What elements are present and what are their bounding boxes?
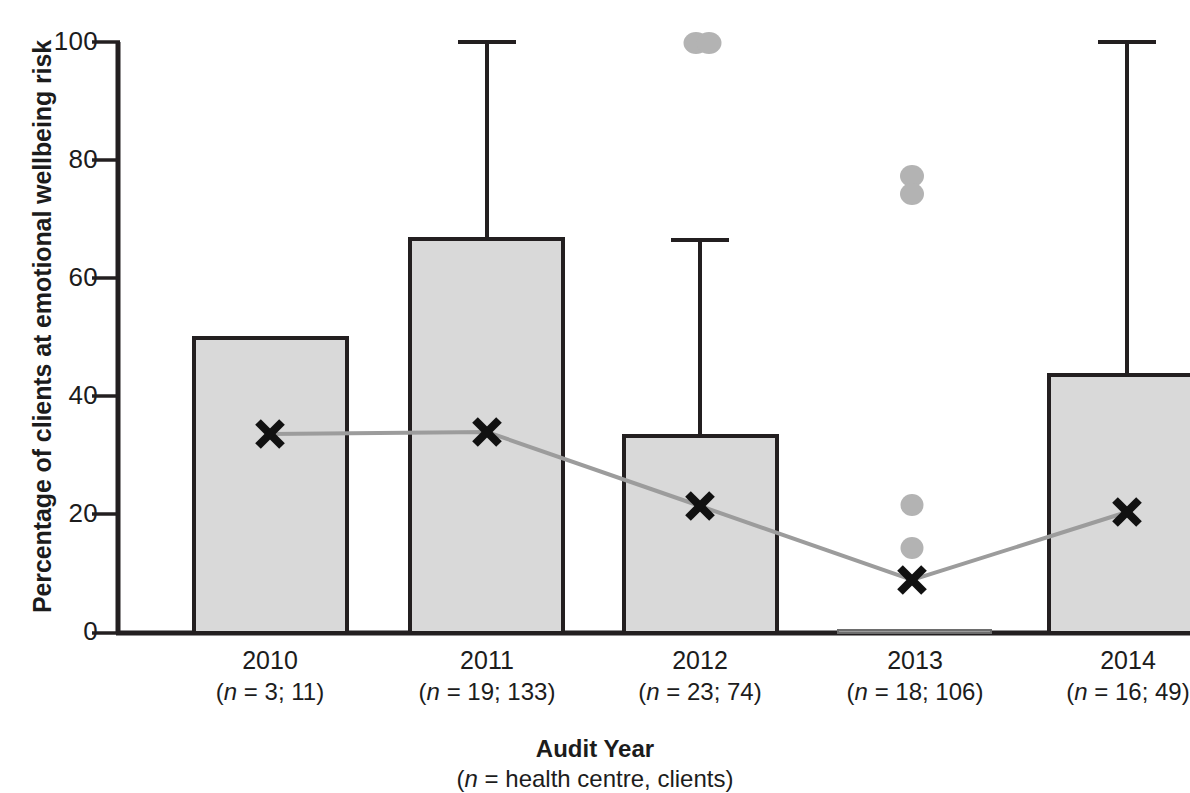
outlier-dot	[901, 494, 924, 516]
x-tick-2012: 2012 (n = 23; 74)	[585, 645, 815, 707]
x-tick-year-2014: 2014	[1013, 645, 1190, 677]
plot-area	[0, 0, 1190, 700]
x-tick-2013: 2013 (n = 18; 106)	[800, 645, 1030, 707]
x-tick-year-2013: 2013	[800, 645, 1030, 677]
x-tick-2014: 2014 (n = 16; 49)	[1013, 645, 1190, 707]
error-bar-2012	[671, 240, 729, 436]
bar-2010	[194, 338, 347, 633]
x-tick-year-2012: 2012	[585, 645, 815, 677]
x-tick-note-2012: (n = 23; 74)	[585, 677, 815, 707]
x-tick-year-2011: 2011	[372, 645, 602, 677]
x-tick-note-2011: (n = 19; 133)	[372, 677, 602, 707]
outlier-dot	[697, 32, 722, 54]
outlier-dot	[900, 183, 924, 205]
outlier-dot	[901, 537, 924, 559]
x-tick-note-2013: (n = 18; 106)	[800, 677, 1030, 707]
bar-series	[194, 239, 1190, 633]
x-axis-title: Audit Year	[0, 735, 1190, 763]
error-bar-2014	[1098, 42, 1156, 375]
mean-marker-2013	[900, 568, 924, 592]
chart-figure: Percentage of clients at emotional wellb…	[0, 0, 1190, 793]
x-tick-note-2014: (n = 16; 49)	[1013, 677, 1190, 707]
x-tick-2011: 2011 (n = 19; 133)	[372, 645, 602, 707]
x-tick-note-2010: (n = 3; 11)	[155, 677, 385, 707]
x-tick-2010: 2010 (n = 3; 11)	[155, 645, 385, 707]
bar-2012	[624, 436, 777, 633]
x-axis-subtitle: (n = health centre, clients)	[0, 765, 1190, 793]
bar-2013	[838, 630, 991, 633]
x-tick-year-2010: 2010	[155, 645, 385, 677]
error-bar-2011	[458, 42, 516, 239]
